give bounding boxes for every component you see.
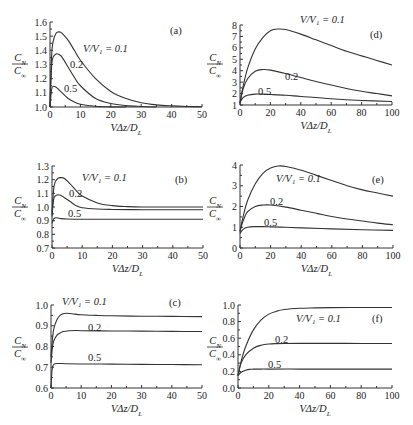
x-tick-label: 0	[238, 250, 243, 261]
x-tick-label: 50	[197, 109, 207, 120]
series-label: 0.2	[270, 196, 283, 207]
x-tick-label: 80	[356, 390, 366, 401]
y-tick-label: 1.0	[223, 300, 236, 311]
series-label: 0.5	[264, 217, 277, 228]
x-tick-label: 100	[386, 250, 401, 261]
y-tick-label: 0.7	[36, 362, 49, 373]
y-tick-label: 4	[232, 65, 237, 76]
panel-f: 0.00.20.40.60.81.0020406080100VΔz/DLCNC∞…	[207, 300, 400, 419]
series-label: V/V₁ = 0.1	[83, 43, 128, 54]
series-label: V/V₁ = 0.1	[300, 14, 345, 25]
series-line-10-5	[240, 227, 393, 234]
y-tick-label: 0	[232, 243, 237, 254]
x-tick-label: 20	[106, 109, 116, 120]
x-tick-label: 80	[357, 250, 367, 261]
x-tick-label: 10	[75, 109, 85, 120]
y-tick-label: 0.6	[223, 333, 236, 344]
x-tick-label: 100	[385, 390, 400, 401]
x-tick-label: 50	[197, 390, 207, 401]
series-line-10-5	[51, 363, 202, 388]
series-label: 0.5	[88, 352, 101, 363]
y-tick-label: 4	[232, 160, 237, 171]
y-tick-label: 1.2	[35, 73, 48, 84]
figure: 1.01.11.21.31.41.51.601020304050VΔz/DLCN…	[0, 0, 413, 425]
y-tick-label: 0.8	[37, 229, 50, 240]
series-line-10-1	[51, 313, 202, 357]
y-tick-label: 2	[232, 88, 237, 99]
x-tick-label: 60	[327, 250, 337, 261]
y-tick-label: 0.0	[223, 383, 236, 394]
y-axis-title: CNC∞	[207, 52, 223, 80]
y-tick-label: 1.0	[36, 300, 49, 311]
x-tick-label: 0	[48, 109, 53, 120]
y-tick-label: 0.8	[223, 316, 236, 327]
x-tick-label: 20	[106, 390, 116, 401]
svg-text:C∞: C∞	[209, 208, 221, 223]
x-tick-label: 30	[138, 250, 148, 261]
y-axis-title: CNC∞	[207, 195, 223, 223]
series-label: 0.2	[275, 334, 288, 345]
x-tick-label: 40	[295, 390, 305, 401]
series-line-10-2	[238, 343, 392, 375]
panel-e: 01234020406080100VΔz/DLCNC∞(e)V/V₁ = 0.1…	[207, 160, 401, 279]
series-label: 0.2	[69, 188, 82, 199]
x-tick-label: 60	[325, 390, 335, 401]
y-tick-label: 0.4	[223, 349, 236, 360]
y-tick-label: 1	[232, 100, 237, 111]
x-tick-label: 10	[76, 390, 86, 401]
x-tick-label: 30	[137, 390, 147, 401]
series-label: V/V₁ = 0.1	[296, 313, 341, 324]
series-label: V/V₁ = 0.1	[82, 172, 127, 183]
series-line-10-5	[238, 369, 392, 375]
y-axis-title: CNC∞	[12, 335, 28, 363]
y-tick-label: 8	[232, 20, 237, 31]
y-tick-label: 1.3	[37, 161, 50, 172]
x-tick-label: 40	[168, 250, 178, 261]
series-line-10-2	[50, 54, 156, 107]
series-label: 0.2	[70, 59, 83, 70]
x-axis-title: VΔz/DL	[111, 403, 142, 418]
y-tick-label: 0.7	[37, 243, 50, 254]
y-tick-label: 1	[232, 222, 237, 233]
x-tick-label: 20	[265, 107, 275, 118]
series-label: 0.5	[64, 83, 77, 94]
x-tick-label: 20	[107, 250, 117, 261]
y-axis-title: CNC∞	[207, 335, 223, 363]
x-axis-title: VΔz/DL	[299, 403, 330, 418]
x-axis-title: VΔz/DL	[110, 122, 141, 137]
y-tick-label: 0.9	[37, 215, 50, 226]
panel-label: (c)	[169, 297, 181, 309]
y-axis-title: CNC∞	[12, 195, 28, 223]
series-line-10-2	[240, 205, 393, 232]
x-tick-label: 60	[326, 107, 336, 118]
x-axis-title: VΔz/DL	[301, 263, 332, 278]
x-tick-label: 40	[167, 109, 177, 120]
y-tick-label: 1.6	[35, 17, 48, 28]
x-tick-label: 10	[77, 250, 87, 261]
y-tick-label: 5	[232, 54, 237, 65]
series-line-10-2	[51, 331, 202, 364]
svg-text:C∞: C∞	[209, 348, 221, 363]
series-label: 0.5	[268, 359, 281, 370]
panel-label: (e)	[372, 174, 384, 186]
y-tick-label: 2	[232, 201, 237, 212]
panel-a: 1.01.11.21.31.41.51.601020304050VΔz/DLCN…	[12, 17, 207, 138]
x-tick-label: 0	[236, 390, 241, 401]
panel-label: (f)	[372, 313, 383, 325]
x-axis-title: VΔz/DL	[300, 120, 331, 135]
x-tick-label: 80	[357, 107, 367, 118]
svg-text:C∞: C∞	[14, 208, 26, 223]
x-axis-title: VΔz/DL	[112, 263, 143, 278]
panel-label: (b)	[175, 174, 188, 186]
y-tick-label: 1.5	[35, 31, 48, 42]
y-tick-label: 3	[232, 180, 237, 191]
x-tick-label: 40	[296, 107, 306, 118]
series-label: 0.2	[88, 322, 101, 333]
x-tick-label: 0	[238, 107, 243, 118]
y-tick-label: 7	[232, 31, 237, 42]
panel-d: 12345678020406080100VΔz/DLCNC∞(d)V/V₁ = …	[207, 14, 400, 135]
x-tick-label: 30	[136, 109, 146, 120]
panel-b: 0.70.80.91.01.11.21.301020304050VΔz/DLCN…	[12, 161, 208, 279]
y-tick-label: 6	[232, 42, 237, 53]
panel-c: 0.60.70.80.91.001020304050VΔz/DLCNC∞(c)V…	[12, 296, 207, 418]
